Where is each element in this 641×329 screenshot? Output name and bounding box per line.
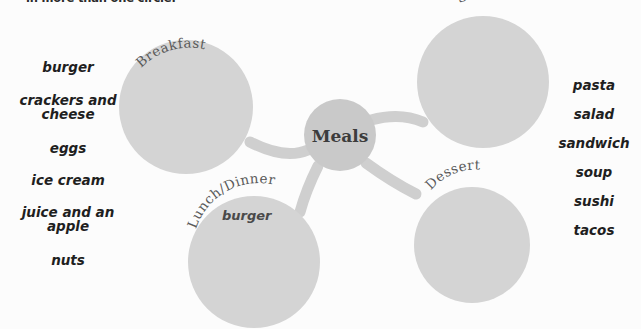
word-bank-item[interactable]: ice cream [2, 173, 134, 187]
connector-center-breakfast [250, 142, 308, 154]
word-bank-item[interactable]: soup [548, 165, 640, 179]
word-bank-item[interactable]: eggs [2, 141, 134, 155]
label-snack: Snack [455, 0, 505, 6]
dropped-word-lunch-dinner-burger[interactable]: burger [222, 208, 272, 223]
label-dessert: Dessert [422, 157, 481, 193]
word-bank-right: pasta salad sandwich soup sushi tacos [548, 78, 640, 258]
word-bank-item[interactable]: nuts [2, 253, 134, 267]
circle-snack[interactable] [417, 16, 549, 148]
word-bank-item[interactable]: tacos [548, 223, 640, 237]
word-bank-item[interactable]: juice and an apple [2, 205, 134, 233]
word-bank-item[interactable]: pasta [548, 78, 640, 92]
label-center-meals: Meals [312, 126, 369, 146]
word-bank-item[interactable]: sandwich [548, 136, 640, 150]
connector-center-snack [371, 116, 423, 122]
connector-center-dessert [366, 163, 416, 194]
circle-dessert[interactable] [414, 187, 530, 303]
word-bank-item[interactable]: burger [2, 60, 134, 74]
word-bank-item[interactable]: sushi [548, 194, 640, 208]
word-bank-item[interactable]: salad [548, 107, 640, 121]
connector-center-lunch-dinner [300, 166, 318, 212]
mind-map-worksheet: in more than one circle. Breakfast Snack [0, 0, 641, 329]
word-bank-item[interactable]: crackers and cheese [2, 93, 134, 121]
word-bank-left: burger crackers and cheese eggs ice crea… [2, 60, 134, 280]
